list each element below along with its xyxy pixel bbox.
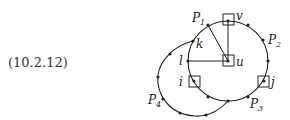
label-l: l (179, 54, 183, 68)
label-p4: P4 (147, 93, 161, 109)
label-v: v (236, 9, 243, 23)
label-p2: P2 (267, 33, 281, 49)
path-p4 (158, 41, 228, 116)
edge-p1-u (208, 25, 228, 61)
label-k: k (196, 37, 203, 51)
label-p1: P1 (191, 11, 205, 27)
graph-diagram: v u l k i j P1 P2 P3 P4 (0, 0, 290, 120)
label-p3: P3 (249, 97, 263, 113)
label-i: i (179, 75, 183, 89)
label-u: u (236, 55, 244, 69)
